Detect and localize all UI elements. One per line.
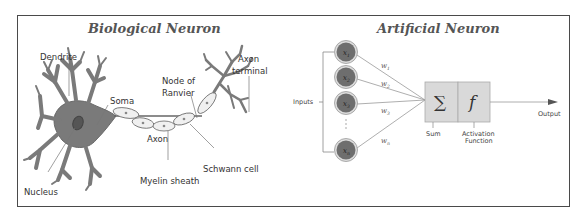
weight-connections: [357, 55, 425, 148]
label-schwann-cell: Schwann cell: [203, 164, 259, 174]
diagram-canvas: Biological Neuron: [0, 0, 587, 221]
weight-label-n: wn: [381, 137, 390, 146]
activation-label-line2: Function: [465, 137, 493, 145]
input-node-1: x1: [335, 41, 358, 64]
neuron-body: [24, 48, 116, 190]
inputs-bracket: [319, 52, 334, 152]
label-nucleus: Nucleus: [24, 187, 58, 197]
label-node-of-ranvier-line2: Ranvier: [162, 88, 195, 98]
weight-label-2: w2: [381, 80, 390, 89]
biological-neuron-title: Biological Neuron: [87, 21, 221, 36]
artificial-neuron-title: Artificial Neuron: [375, 21, 500, 36]
input-node-2: x2: [335, 66, 358, 89]
label-myelin-sheath: Myelin sheath: [140, 176, 199, 186]
sum-box: ∑: [425, 82, 458, 122]
output-arrow: [490, 99, 558, 105]
sum-symbol: ∑: [434, 92, 446, 112]
weight-label-3: w3: [381, 107, 390, 116]
label-axon: Axon: [147, 134, 168, 144]
label-dendrite: Dendrite: [40, 52, 77, 62]
label-node-of-ranvier-line1: Node of: [162, 76, 196, 86]
label-axon-terminal-line1: Axon: [238, 54, 259, 64]
weight-label-1: w1: [381, 62, 390, 71]
ellipsis-dots: [345, 119, 346, 128]
input-node-3: x3: [335, 92, 358, 115]
activation-box: f: [458, 82, 490, 122]
box-leader-lines: [433, 122, 474, 128]
output-label: Output: [538, 110, 561, 118]
label-axon-terminal-line2: terminal: [232, 66, 268, 76]
inputs-label: Inputs: [293, 98, 314, 106]
label-soma: Soma: [110, 96, 134, 106]
input-node-n: xn: [335, 139, 358, 162]
sum-label: Sum: [426, 130, 441, 138]
